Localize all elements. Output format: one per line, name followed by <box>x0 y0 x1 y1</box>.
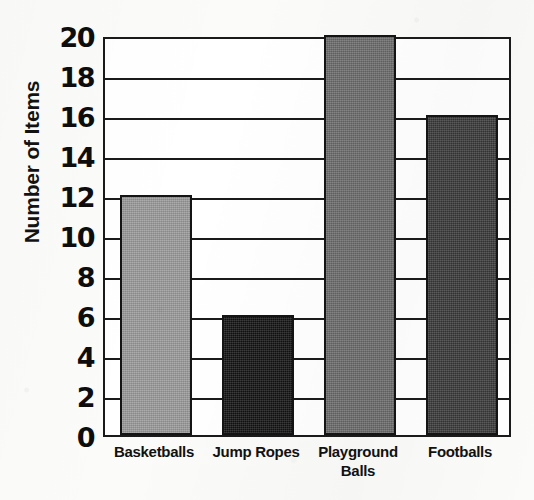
x-axis-label-basketballs: Basketballs <box>103 443 205 462</box>
y-axis-tick-4: 4 <box>77 344 94 371</box>
bar-basketballs <box>120 195 193 435</box>
x-axis-label-footballs: Footballs <box>409 443 511 462</box>
y-axis-tick-20: 20 <box>59 24 94 51</box>
y-axis-tick-labels: 20181614121086420 <box>52 37 100 437</box>
x-axis-label-line: Balls <box>307 462 409 481</box>
x-axis-label-line: Jump Ropes <box>205 443 307 462</box>
x-axis-label-jump-ropes: Jump Ropes <box>205 443 307 462</box>
y-axis-tick-2: 2 <box>77 384 94 411</box>
y-axis-tick-18: 18 <box>59 64 94 91</box>
x-axis-label-line: Playground <box>307 443 409 462</box>
bar-chart-figure: Number of Items 20181614121086420 Basket… <box>0 0 534 500</box>
plot-area <box>103 37 511 437</box>
x-axis-label-line: Basketballs <box>103 443 205 462</box>
x-axis-category-labels: BasketballsJump RopesPlaygroundBallsFoot… <box>103 443 511 499</box>
y-axis-tick-0: 0 <box>77 424 94 451</box>
y-axis-tick-10: 10 <box>59 224 94 251</box>
bar-jump-ropes <box>222 315 295 435</box>
x-axis-label-playground-balls: PlaygroundBalls <box>307 443 409 481</box>
bars-layer <box>105 39 509 435</box>
y-axis-title: Number of Items <box>20 72 44 252</box>
bar-footballs <box>426 115 499 435</box>
x-axis-label-line: Footballs <box>409 443 511 462</box>
y-axis-tick-12: 12 <box>59 184 94 211</box>
y-axis-tick-8: 8 <box>77 264 94 291</box>
bar-playground-balls <box>324 35 397 435</box>
y-axis-tick-14: 14 <box>59 144 94 171</box>
y-axis-tick-6: 6 <box>77 304 94 331</box>
y-axis-tick-16: 16 <box>59 104 94 131</box>
